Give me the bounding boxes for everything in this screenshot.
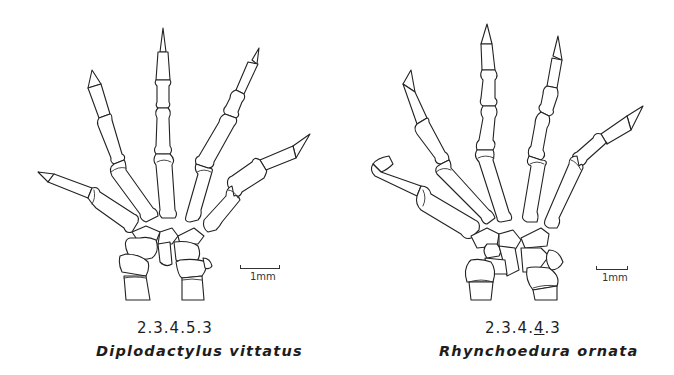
scale-bar-label: 1mm <box>602 272 628 283</box>
phalangeal-formula: 2.3.4.4.3 <box>485 319 561 337</box>
species-name: Rhynchoedura ornata <box>439 343 638 359</box>
phalangeal-formula: 2.3.4.5.3 <box>137 319 213 337</box>
formula-suffix: .3 <box>544 319 560 337</box>
figure-diplodactylus-vittatus: 1mm 2.3.4.5.3 Diplodactylus vittatus <box>0 0 337 375</box>
species-name: Diplodactylus vittatus <box>96 343 303 359</box>
scale-bar-line <box>596 266 628 270</box>
scale-bar-label: 1mm <box>250 271 276 282</box>
scale-bar-line <box>240 265 280 269</box>
formula-underlined-digit: 4 <box>534 319 545 337</box>
formula-prefix: 2.3.4. <box>485 319 534 337</box>
figure-rhynchoedura-ornata: 1mm 2.3.4.4.3 Rhynchoedura ornata <box>337 0 674 375</box>
